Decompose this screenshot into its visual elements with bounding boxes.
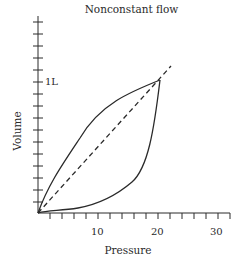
x-axis-ticks <box>50 213 230 219</box>
x-tick-label-10: 10 <box>91 226 104 237</box>
y-tick-label-1L: 1L <box>45 76 58 87</box>
pressure-volume-plot <box>0 0 233 262</box>
x-tick-label-20: 20 <box>151 226 164 237</box>
x-tick-label-30: 30 <box>210 226 223 237</box>
